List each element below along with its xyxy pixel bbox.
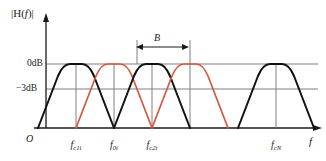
- tick-label-fcN: fcN: [271, 139, 281, 150]
- x-axis-label: f: [309, 136, 312, 147]
- tick-label-fc1i: fc1i: [71, 139, 82, 150]
- plot-canvas: [0, 0, 326, 161]
- y-axis-label-base: |H(: [11, 7, 25, 19]
- bandwidth-arrow: [136, 44, 189, 50]
- tick-label-f0i-sub: 0i: [113, 144, 118, 151]
- filter-bank-frequency-response-figure: |H(f)| 0dB −3dB O f B fc1i f0i fc2i fcN: [0, 0, 326, 161]
- level-label-minus3db: −3dB: [16, 84, 37, 94]
- tick-label-f0i: f0i: [110, 139, 118, 150]
- y-axis-arrowhead: [43, 13, 49, 22]
- level-label-0db: 0dB: [27, 59, 43, 69]
- y-axis-label-tail: )|: [28, 7, 34, 19]
- tick-label-fc1i-sub: c1i: [73, 144, 81, 151]
- tick-label-fcN-sub: cN: [274, 144, 281, 151]
- y-axis-label: |H(f)|: [11, 8, 34, 19]
- bandwidth-label: B: [154, 33, 160, 43]
- origin-label: O: [26, 134, 33, 144]
- tick-label-fc2i-sub: c2i: [149, 144, 157, 151]
- tick-label-fc2i: fc2i: [147, 139, 158, 150]
